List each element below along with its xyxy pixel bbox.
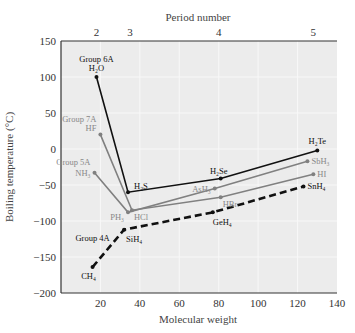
- y-tick-label: −200: [33, 287, 56, 299]
- data-point: [211, 210, 215, 214]
- point-label: PH₃: [110, 212, 124, 222]
- data-point: [301, 184, 305, 188]
- point-label: CH₄: [81, 271, 96, 281]
- data-point: [122, 228, 126, 232]
- data-point: [91, 265, 95, 269]
- period-tick-label: 2: [94, 26, 100, 38]
- group-annotation: Group 6A: [79, 54, 114, 64]
- y-tick-label: 100: [40, 71, 57, 83]
- group-annotation: Group 4A: [75, 233, 110, 243]
- point-label: HBr: [223, 199, 238, 209]
- x-tick-label: 60: [174, 297, 186, 309]
- group-annotation: Group 7A: [62, 114, 97, 124]
- point-label: HCl: [134, 212, 149, 222]
- y-tick-label: −50: [39, 179, 57, 191]
- point-label: H₂S: [134, 181, 148, 191]
- point-label: NH₃: [75, 168, 90, 178]
- point-label: H₂O: [89, 63, 104, 73]
- point-label: SnH₄: [307, 181, 325, 191]
- data-point: [213, 187, 217, 191]
- x-tick-label: 140: [329, 297, 346, 309]
- y-tick-label: 150: [40, 35, 57, 47]
- data-point: [98, 133, 102, 137]
- data-point: [126, 190, 130, 194]
- point-label: GeH₄: [213, 217, 232, 227]
- data-point: [93, 171, 97, 175]
- boiling-point-chart: 150100500−50−100−150−2002040608010012014…: [0, 0, 355, 333]
- y-tick-label: 0: [51, 143, 57, 155]
- y-tick-label: −100: [33, 215, 56, 227]
- period-tick-label: 3: [127, 26, 133, 38]
- point-label: HF: [86, 123, 97, 133]
- data-point: [305, 159, 309, 163]
- x-tick-label: 80: [213, 297, 225, 309]
- point-label: HI: [317, 169, 326, 179]
- period-tick-label: 4: [216, 26, 222, 38]
- data-point: [126, 210, 130, 214]
- data-point: [219, 177, 223, 181]
- group-annotation: Group 5A: [56, 157, 91, 167]
- x-tick-label: 100: [250, 297, 267, 309]
- point-label: H₂Se: [210, 166, 228, 176]
- x-tick-label: 120: [289, 297, 306, 309]
- x-tick-label: 40: [134, 297, 146, 309]
- y-tick-label: 50: [45, 107, 57, 119]
- point-label: SiH₄: [126, 234, 142, 244]
- point-label: SbH₃: [311, 156, 329, 166]
- x-axis-title: Molecular weight: [159, 313, 237, 325]
- period-tick-label: 5: [311, 26, 317, 38]
- x-tick-label: 20: [95, 297, 107, 309]
- data-point: [315, 148, 319, 152]
- point-label: AsH₃: [192, 184, 211, 194]
- y-tick-label: −150: [33, 251, 56, 263]
- data-point: [311, 172, 315, 176]
- data-point: [94, 75, 98, 79]
- top-axis-title: Period number: [165, 11, 230, 23]
- point-label: H₂Te: [309, 136, 327, 146]
- y-axis-title: Boiling temperature (°C): [3, 112, 16, 222]
